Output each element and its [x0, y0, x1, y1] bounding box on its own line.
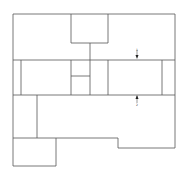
walls: [13, 14, 175, 166]
floor-plan: 12: [0, 0, 187, 176]
section-marker-label: 2: [136, 103, 138, 107]
section-markers: 12: [136, 48, 139, 107]
arrow-up-icon: [136, 95, 139, 99]
section-marker-2: 2: [136, 95, 139, 107]
arrow-down-icon: [136, 55, 139, 59]
section-marker-1: 1: [136, 48, 139, 59]
section-marker-label: 1: [136, 48, 138, 52]
